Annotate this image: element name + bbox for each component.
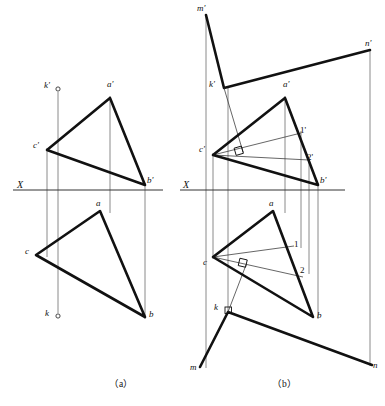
label-m-prime-panel-b: m' — [197, 4, 205, 13]
label-b-panel-b: b — [317, 311, 322, 320]
line-mn-top — [200, 312, 372, 367]
label-c-prime-panel-b: c' — [199, 145, 205, 154]
caption-panel-a: （a） — [109, 376, 133, 390]
label-a-prime-panel-b: a' — [283, 80, 289, 89]
caption-panel-b: （b） — [272, 376, 297, 390]
panel-b — [180, 15, 372, 368]
front-triangle-a — [47, 98, 145, 185]
label-n-prime-panel-b: n' — [365, 39, 371, 48]
x-axis-label-panel-b: X — [183, 179, 189, 190]
label-a-panel-b: a — [269, 199, 274, 208]
panel-a — [13, 87, 163, 319]
line-mn-front — [206, 15, 370, 88]
label-a-prime-panel-a: a' — [107, 80, 113, 89]
label-one-prime-panel-b: 1' — [300, 125, 306, 135]
geometry-figure — [0, 0, 385, 406]
label-two-panel-b: 2 — [300, 265, 305, 275]
label-two-prime-panel-b: 2' — [307, 152, 313, 162]
label-k-prime-panel-b: k' — [209, 80, 215, 89]
point-k-a — [56, 314, 60, 318]
aux-line-c2-top — [213, 257, 303, 277]
label-k-prime-panel-a: k' — [44, 81, 50, 90]
label-a-panel-a: a — [96, 199, 101, 208]
label-b-prime-panel-b: b' — [320, 176, 326, 185]
label-c-prime-panel-a: c' — [33, 141, 39, 150]
label-k-panel-b: k — [214, 303, 218, 312]
right-angle-mark-front — [234, 146, 243, 155]
panel-b-projectors — [206, 15, 370, 368]
label-c-panel-b: c — [203, 258, 207, 267]
label-k-panel-a: k — [45, 309, 49, 318]
point-k-prime-a — [56, 87, 60, 91]
x-axis-label-panel-a: X — [17, 179, 23, 190]
label-c-panel-a: c — [25, 247, 29, 256]
label-b-prime-panel-a: b' — [147, 176, 153, 185]
label-n-panel-b: n — [373, 361, 378, 370]
top-triangle-a — [36, 211, 145, 317]
label-b-panel-a: b — [149, 310, 154, 319]
label-one-panel-b: 1 — [294, 239, 299, 249]
label-m-panel-b: m — [190, 363, 197, 372]
